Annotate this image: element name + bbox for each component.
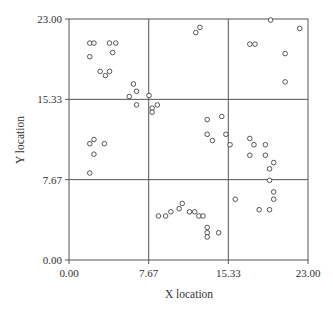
data-point (147, 93, 152, 98)
data-point (267, 178, 272, 183)
scatter-chart: 0.007.6715.3323.00 0.007.6715.3323.00 X … (0, 0, 333, 312)
data-point (92, 152, 97, 157)
data-point (248, 153, 253, 158)
data-point (134, 103, 139, 108)
data-point (87, 54, 92, 59)
data-point (103, 73, 108, 78)
data-point (271, 160, 276, 165)
data-point (192, 210, 197, 215)
data-point (102, 141, 107, 146)
data-point (248, 136, 253, 141)
data-point (110, 50, 115, 55)
data-point (271, 197, 276, 202)
data-point (205, 225, 210, 230)
x-tick-label: 0.00 (59, 267, 79, 279)
data-point (205, 235, 210, 240)
data-point (210, 138, 215, 143)
data-point (233, 197, 238, 202)
data-point (248, 42, 253, 47)
data-point (87, 171, 92, 176)
data-point (113, 41, 118, 46)
data-point (87, 141, 92, 146)
data-point (127, 94, 132, 99)
data-point (205, 132, 210, 137)
data-point (205, 117, 210, 122)
data-point (228, 142, 233, 147)
data-point (257, 207, 262, 212)
data-point (155, 103, 160, 108)
x-tick-label: 23.00 (296, 267, 321, 279)
data-point (193, 30, 198, 35)
data-point (198, 25, 203, 30)
data-point (92, 137, 97, 142)
data-point (180, 201, 185, 206)
y-tick-label: 15.33 (37, 93, 62, 105)
data-point (98, 69, 103, 74)
data-point (283, 80, 288, 85)
data-point (134, 89, 139, 94)
data-point (263, 153, 268, 158)
data-point (268, 18, 273, 23)
data-point (297, 26, 302, 31)
data-point (156, 214, 161, 219)
x-axis-title: X location (165, 288, 213, 300)
y-axis-ticks: 0.007.6715.3323.00 (37, 13, 69, 266)
data-point (253, 42, 258, 47)
x-axis-ticks: 0.007.6715.3323.00 (59, 260, 321, 279)
data-point (150, 110, 155, 115)
data-point (283, 51, 288, 56)
data-point (216, 230, 221, 235)
y-tick-label: 0.00 (43, 254, 63, 266)
data-point (267, 207, 272, 212)
data-point (107, 69, 112, 74)
quadrat-grid (69, 19, 308, 260)
data-point (271, 190, 276, 195)
y-tick-label: 7.67 (43, 174, 63, 186)
y-axis-title: Y location (14, 116, 26, 164)
data-point (219, 114, 224, 119)
data-point (252, 142, 257, 147)
data-point (92, 41, 97, 46)
data-point (201, 214, 206, 219)
data-point (177, 206, 182, 211)
y-tick-label: 23.00 (37, 13, 62, 25)
data-point (131, 82, 136, 87)
data-point (163, 214, 168, 219)
x-tick-label: 15.33 (216, 267, 241, 279)
data-points (87, 18, 302, 240)
data-point (224, 132, 229, 137)
x-tick-label: 7.67 (139, 267, 159, 279)
plot-frame (69, 19, 308, 260)
data-point (267, 167, 272, 172)
data-point (107, 41, 112, 46)
data-point (263, 142, 268, 147)
data-point (187, 210, 192, 215)
data-point (169, 210, 174, 215)
